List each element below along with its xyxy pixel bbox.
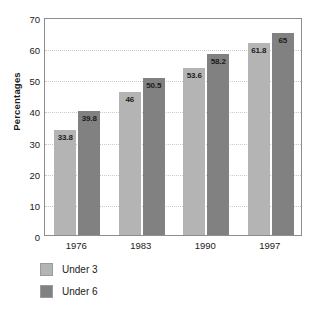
bar-group: 33.839.8 xyxy=(54,19,100,235)
y-axis-tick-label: 50 xyxy=(29,76,40,87)
x-axis-tick-label: 1983 xyxy=(118,240,164,251)
y-axis-tick-label: 10 xyxy=(29,200,40,211)
bar-group: 4650.5 xyxy=(119,19,165,235)
bar[interactable]: 50.5 xyxy=(143,78,165,235)
chart-legend: Under 3Under 6 xyxy=(40,262,98,306)
y-axis-tick-label: 0 xyxy=(35,232,40,243)
bar-value-label: 58.2 xyxy=(207,57,229,66)
y-axis-tick-label: 30 xyxy=(29,138,40,149)
bar[interactable]: 58.2 xyxy=(207,54,229,235)
bar[interactable]: 53.6 xyxy=(183,68,205,235)
bar-value-label: 46 xyxy=(119,95,141,104)
bar-value-label: 39.8 xyxy=(78,114,100,123)
bar[interactable]: 33.8 xyxy=(54,130,76,235)
bar-value-label: 50.5 xyxy=(143,81,165,90)
x-axis-tick-label: 1997 xyxy=(247,240,293,251)
legend-item[interactable]: Under 3 xyxy=(40,262,98,276)
y-axis-tick-label: 20 xyxy=(29,169,40,180)
plot-area: 010203040506070 33.839.84650.553.658.261… xyxy=(44,18,302,236)
legend-item[interactable]: Under 6 xyxy=(40,284,98,298)
bar-group: 61.865 xyxy=(248,19,294,235)
y-axis-title: Percentages xyxy=(11,62,22,142)
bar-value-label: 61.8 xyxy=(248,46,270,55)
legend-swatch xyxy=(40,285,53,298)
y-axis-tick-label: 70 xyxy=(29,14,40,25)
bar[interactable]: 61.8 xyxy=(248,43,270,235)
legend-label: Under 6 xyxy=(62,286,98,297)
bar[interactable]: 46 xyxy=(119,92,141,235)
y-axis-tick-label: 60 xyxy=(29,45,40,56)
bar-value-label: 53.6 xyxy=(183,71,205,80)
bar[interactable]: 65 xyxy=(272,33,294,235)
bars-layer: 33.839.84650.553.658.261.865 xyxy=(45,19,301,235)
y-axis-tick-label: 40 xyxy=(29,107,40,118)
bar-value-label: 65 xyxy=(272,36,294,45)
bar[interactable]: 39.8 xyxy=(78,111,100,235)
legend-label: Under 3 xyxy=(62,264,98,275)
x-axis-tick-label: 1976 xyxy=(53,240,99,251)
bar-group: 53.658.2 xyxy=(183,19,229,235)
bar-value-label: 33.8 xyxy=(54,133,76,142)
x-axis-tick-label: 1990 xyxy=(182,240,228,251)
legend-swatch xyxy=(40,263,53,276)
chart-figure: Percentages 010203040506070 33.839.84650… xyxy=(0,0,319,321)
